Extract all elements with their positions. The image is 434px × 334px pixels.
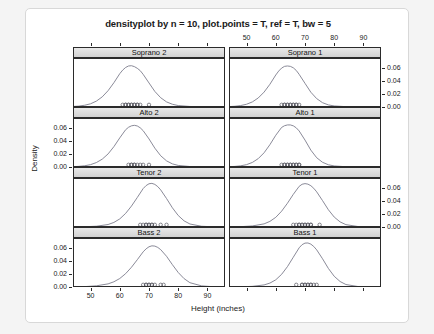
y-axis-tick <box>382 81 385 82</box>
y-axis-tick-label: 0.06 <box>45 244 67 251</box>
y-axis-tick <box>382 68 385 69</box>
y-axis-tick <box>382 94 385 95</box>
x-axis-tick <box>276 43 277 46</box>
x-axis-tick <box>120 43 121 46</box>
density-curve <box>74 125 224 166</box>
density-curve <box>230 125 380 166</box>
density-curve <box>74 183 224 226</box>
panel-strip-label: Soprano 2 <box>132 48 167 57</box>
data-point <box>318 223 321 226</box>
x-axis-tick <box>305 288 306 291</box>
y-axis-tick <box>382 188 385 189</box>
y-axis-tick <box>69 154 72 155</box>
y-axis-tick <box>69 167 72 168</box>
panel-strip-tenor-1: Tenor 1 <box>229 167 381 178</box>
panel-strip-label: Alto 2 <box>139 108 158 117</box>
y-axis-tick-label: 0.02 <box>387 90 401 97</box>
x-axis-tick-label: 70 <box>299 34 311 41</box>
density-curve <box>74 246 224 286</box>
density-curve <box>230 243 380 286</box>
y-axis-tick-label: 0.04 <box>387 197 401 204</box>
panel-strip-label: Alto 1 <box>295 108 314 117</box>
y-axis-tick-label: 0.06 <box>45 124 67 131</box>
x-axis-tick <box>363 288 364 291</box>
panel-strip-label: Bass 1 <box>294 228 317 237</box>
x-axis-tick <box>276 288 277 291</box>
y-axis-tick <box>382 201 385 202</box>
y-axis-tick-label: 0.00 <box>45 283 67 290</box>
data-point <box>147 163 150 166</box>
panel-strip-soprano-1: Soprano 1 <box>229 47 381 58</box>
y-axis-tick <box>69 248 72 249</box>
panel-strip-label: Bass 2 <box>138 228 161 237</box>
x-axis-tick <box>91 288 92 291</box>
y-axis-tick-label: 0.04 <box>45 257 67 264</box>
screenshot-root: densityplot by n = 10, plot.points = T, … <box>0 0 434 334</box>
panel-strip-alto-2: Alto 2 <box>73 107 225 118</box>
y-axis-tick-label: 0.02 <box>387 210 401 217</box>
y-axis-tick-label: 0.06 <box>387 64 401 71</box>
data-point <box>159 223 162 226</box>
y-axis-tick-label: 0.06 <box>387 184 401 191</box>
x-axis-tick-label: 80 <box>328 34 340 41</box>
x-axis-tick <box>207 43 208 46</box>
panel-alto-2 <box>73 118 225 167</box>
x-axis-tick-label: 90 <box>357 34 369 41</box>
panel-soprano-1 <box>229 58 381 107</box>
plot-card: densityplot by n = 10, plot.points = T, … <box>25 8 409 323</box>
x-axis-tick <box>149 288 150 291</box>
y-axis-tick <box>382 214 385 215</box>
y-axis-tick-label: 0.04 <box>45 137 67 144</box>
y-axis-tick <box>382 107 385 108</box>
panel-strip-label: Soprano 1 <box>288 48 323 57</box>
x-axis-tick <box>207 288 208 291</box>
x-axis-tick <box>120 288 121 291</box>
x-axis-tick <box>149 43 150 46</box>
panel-strip-label: Tenor 2 <box>136 168 161 177</box>
x-axis-tick <box>247 288 248 291</box>
x-axis-tick <box>305 43 306 46</box>
x-axis-tick-label: 50 <box>241 34 253 41</box>
y-axis-tick <box>69 261 72 262</box>
y-axis-tick-label: 0.00 <box>45 163 67 170</box>
data-point <box>147 103 150 106</box>
y-axis-tick-label: 0.00 <box>387 103 401 110</box>
x-axis-tick <box>178 288 179 291</box>
x-axis-tick-label: 80 <box>172 292 184 299</box>
panel-strip-bass-1: Bass 1 <box>229 227 381 238</box>
panel-bass-2 <box>73 238 225 287</box>
density-curve <box>74 66 224 106</box>
x-axis-tick-label: 50 <box>85 292 97 299</box>
y-axis-tick <box>69 141 72 142</box>
x-axis-tick <box>334 43 335 46</box>
panel-alto-1 <box>229 118 381 167</box>
data-point <box>165 223 168 226</box>
panel-strip-soprano-2: Soprano 2 <box>73 47 225 58</box>
panel-strip-label: Tenor 1 <box>292 168 317 177</box>
y-axis-tick-label: 0.02 <box>45 270 67 277</box>
x-axis-tick <box>363 43 364 46</box>
y-axis-tick-label: 0.00 <box>387 223 401 230</box>
density-curve <box>230 66 380 106</box>
y-axis-tick <box>382 227 385 228</box>
x-axis-tick-label: 70 <box>143 292 155 299</box>
x-axis-tick-label: 60 <box>114 292 126 299</box>
panel-tenor-2 <box>73 178 225 227</box>
y-axis-tick <box>69 287 72 288</box>
panel-bass-1 <box>229 238 381 287</box>
y-axis-tick <box>69 274 72 275</box>
trellis-panel-grid: Soprano 2Soprano 10.000.020.040.06Alto 2… <box>26 9 410 324</box>
x-axis-tick <box>178 43 179 46</box>
x-axis-tick <box>91 43 92 46</box>
panel-strip-bass-2: Bass 2 <box>73 227 225 238</box>
x-axis-tick <box>247 43 248 46</box>
panel-tenor-1 <box>229 178 381 227</box>
panel-strip-alto-1: Alto 1 <box>229 107 381 118</box>
y-axis-tick <box>69 128 72 129</box>
data-point <box>295 283 298 286</box>
y-axis-tick-label: 0.02 <box>45 150 67 157</box>
panel-strip-tenor-2: Tenor 2 <box>73 167 225 178</box>
panel-soprano-2 <box>73 58 225 107</box>
x-axis-tick <box>334 288 335 291</box>
density-curve <box>230 184 380 226</box>
